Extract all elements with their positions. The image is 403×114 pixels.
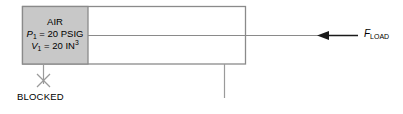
volume-exponent: 3 <box>75 39 79 46</box>
pressure-symbol: P <box>27 28 33 39</box>
volume-label: V1 = 20 IN3 <box>22 40 88 53</box>
force-subscript: LOAD <box>370 33 389 40</box>
pneumatic-cylinder-diagram: AIR P1 = 20 PSIG V1 = 20 IN3 BLOCKED FLO… <box>0 0 403 114</box>
air-chamber-labels: AIR P1 = 20 PSIG V1 = 20 IN3 <box>22 16 88 53</box>
pressure-value: = 20 PSIG <box>39 28 83 39</box>
blocked-port-label: BLOCKED <box>17 92 64 102</box>
volume-value: = 20 IN <box>44 40 75 51</box>
volume-symbol: V <box>31 40 37 51</box>
air-medium-label: AIR <box>22 16 88 28</box>
pressure-subscript: 1 <box>33 33 37 40</box>
volume-subscript: 1 <box>38 45 42 52</box>
load-force-label: FLOAD <box>364 29 389 39</box>
load-force-arrow-icon <box>317 31 358 40</box>
